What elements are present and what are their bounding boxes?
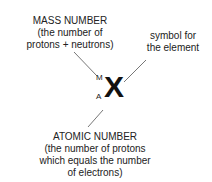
atomic-number-title: ATOMIC NUMBER xyxy=(20,131,170,143)
atomic-number-desc-2: which equals the number xyxy=(20,155,170,167)
atomic-number-symbol: A xyxy=(96,92,101,101)
atomic-number-label: ATOMIC NUMBER (the number of protons whi… xyxy=(20,131,170,179)
symbol-desc-1: symbol for xyxy=(138,30,208,42)
mass-number-symbol: M xyxy=(96,73,103,82)
element-symbol: X xyxy=(104,72,124,102)
atomic-number-connector xyxy=(88,110,103,127)
symbol-connector xyxy=(124,60,146,82)
atomic-number-desc-3: of electrons) xyxy=(20,167,170,179)
symbol-desc-2: the element xyxy=(138,42,208,54)
symbol-label: symbol for the element xyxy=(138,30,208,54)
mass-number-label: MASS NUMBER (the number of protons + neu… xyxy=(20,15,120,51)
mass-number-desc-1: (the number of xyxy=(20,27,120,39)
mass-number-connector xyxy=(74,52,97,76)
atomic-number-desc-1: (the number of protons xyxy=(20,143,170,155)
mass-number-title: MASS NUMBER xyxy=(20,15,120,27)
mass-number-desc-2: protons + neutrons) xyxy=(20,39,120,51)
